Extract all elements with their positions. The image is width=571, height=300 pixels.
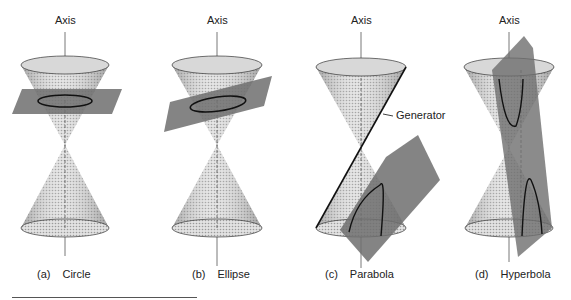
top-rim <box>21 56 109 74</box>
panel-parabola <box>316 32 440 268</box>
top-rim <box>172 56 262 74</box>
axis-label-c: Axis <box>351 14 372 26</box>
footer-rule <box>12 297 197 298</box>
panel-ellipse <box>164 32 272 266</box>
conic-sections-figure <box>0 0 571 300</box>
axis-label-b: Axis <box>207 14 228 26</box>
panel-circle <box>12 32 122 256</box>
caption-letter: (a) <box>37 268 50 280</box>
generator-label: Generator <box>396 109 446 121</box>
caption-d: (d)Hyperbola <box>475 268 551 280</box>
cutting-plane <box>12 89 122 114</box>
caption-letter: (b) <box>192 268 205 280</box>
caption-letter: (c) <box>325 268 338 280</box>
caption-c: (c)Parabola <box>325 268 394 280</box>
caption-name: Ellipse <box>217 268 249 280</box>
caption-letter: (d) <box>475 268 488 280</box>
caption-name: Hyperbola <box>500 268 550 280</box>
caption-name: Parabola <box>350 268 394 280</box>
caption-a: (a)Circle <box>37 268 91 280</box>
top-rim <box>316 58 406 76</box>
axis-label-a: Axis <box>55 14 76 26</box>
generator-pointer <box>383 114 393 116</box>
caption-name: Circle <box>62 268 90 280</box>
axis-label-d: Axis <box>499 14 520 26</box>
caption-b: (b)Ellipse <box>192 268 250 280</box>
panel-hyperbola <box>464 32 554 262</box>
